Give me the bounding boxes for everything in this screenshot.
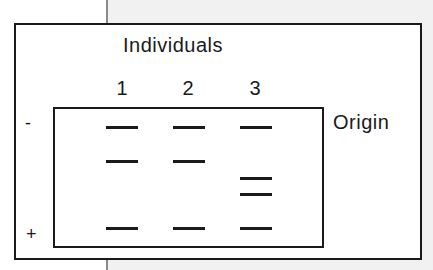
band-lane2-row2 [173, 160, 205, 163]
origin-label: Origin [333, 112, 389, 132]
band-lane3-row1 [240, 126, 272, 129]
band-lane2-row1 [173, 126, 205, 129]
lane-label-1: 1 [107, 78, 137, 98]
lane-label-3: 3 [240, 78, 270, 98]
diagram-title: Individuals [123, 35, 223, 55]
band-lane1-row1 [106, 126, 138, 129]
band-lane3-row3 [240, 177, 272, 180]
band-lane3-row4 [240, 193, 272, 196]
lane-label-2: 2 [173, 78, 203, 98]
band-lane3-row5 [240, 227, 272, 230]
band-lane1-row5 [106, 227, 138, 230]
band-lane1-row2 [106, 160, 138, 163]
positive-pole-label: + [26, 225, 37, 243]
negative-pole-label: - [25, 114, 31, 132]
band-lane2-row5 [173, 227, 205, 230]
